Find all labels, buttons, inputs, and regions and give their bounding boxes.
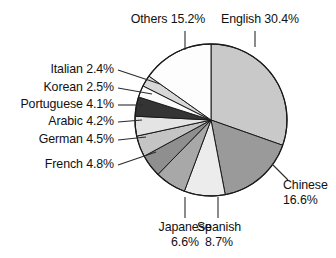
pie-label-spanish-name: Spanish [185,220,253,235]
pie-label-others-text: Others 15.2% [118,12,218,27]
pie-label-portuguese-text: Portuguese 4.1% [0,97,114,112]
pie-label-spanish-value: 8.7% [185,235,253,250]
pie-slice-group [135,44,287,196]
pie-label-english-text: English 30.4% [205,12,315,27]
pie-label-german: German 4.5% [0,132,114,147]
pie-label-chinese-value: 16.6% [283,193,336,208]
pie-chart: Others 15.2% English 30.4% Italian 2.4% … [0,0,336,258]
pie-label-korean: Korean 2.5% [0,80,114,95]
pie-label-arabic: Arabic 4.2% [0,114,114,129]
pie-label-portuguese: Portuguese 4.1% [0,97,114,112]
pie-label-italian-text: Italian 2.4% [0,62,114,77]
pie-label-korean-text: Korean 2.5% [0,80,114,95]
pie-label-italian: Italian 2.4% [0,62,114,77]
pie-label-english: English 30.4% [205,12,315,27]
pie-label-others: Others 15.2% [118,12,218,27]
pie-label-german-text: German 4.5% [0,132,114,147]
pie-label-french-text: French 4.8% [0,157,114,172]
pie-label-french: French 4.8% [0,157,114,172]
pie-label-chinese: Chinese 16.6% [283,178,336,207]
pie-label-spanish: Spanish 8.7% [185,220,253,249]
pie-label-chinese-name: Chinese [283,178,336,193]
pie-label-arabic-text: Arabic 4.2% [0,114,114,129]
